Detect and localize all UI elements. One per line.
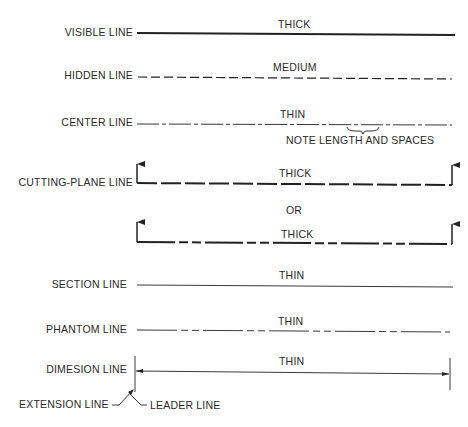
section-line-label: SECTION LINE [52,278,127,290]
visible-line-label: VISIBLE LINE [65,26,133,38]
dimension-line [136,371,449,374]
cutting-plane-line-weight: THICK [279,167,312,179]
phantom-line-weight: THIN [278,315,303,327]
or-label: OR [286,204,302,216]
note-brace-icon [347,127,379,134]
hidden-line-weight: MEDIUM [273,61,317,73]
visible-line-weight: THICK [278,18,311,30]
extension-line-label: EXTENSION LINE [19,398,109,410]
leader-line-label: LEADER LINE [150,399,220,411]
center-line [137,124,452,125]
cutting-plane-line-label: CUTTING-PLANE LINE [19,176,133,188]
leader-pointer [129,393,147,405]
cutting-plane-alt-line [137,242,452,244]
visible-line [137,33,455,35]
dimension-line-label: DIMESION LINE [46,363,127,375]
dimension-arrow-left-icon [136,369,143,373]
dimension-arrow-right-icon [442,372,449,376]
hidden-line [138,77,452,79]
section-line [137,285,453,287]
cutting-plane-alt-weight: THICK [281,228,314,240]
center-line-label: CENTER LINE [61,116,133,128]
phantom-line [137,330,450,332]
center-line-weight: THIN [280,108,305,120]
dimension-line-weight: THIN [279,355,304,367]
center-line-note: NOTE LENGTH AND SPACES [286,134,434,146]
phantom-line-label: PHANTOM LINE [46,323,127,335]
cutting-plane-line [137,183,452,185]
section-line-weight: THIN [279,269,304,281]
hidden-line-label: HIDDEN LINE [64,69,133,81]
